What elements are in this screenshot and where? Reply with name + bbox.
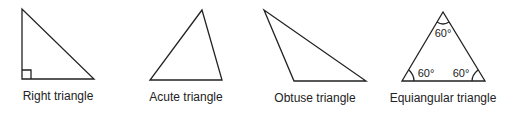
top-angle-label: 60° <box>435 27 452 39</box>
left-angle-arc <box>409 70 414 81</box>
top-angle-arc <box>437 22 449 24</box>
right-triangle-label: Right triangle <box>23 89 94 103</box>
right-angle-arc <box>472 70 478 81</box>
right-angle-marker <box>22 70 31 79</box>
obtuse-triangle-label: Obtuse triangle <box>274 91 355 105</box>
equiangular-triangle-label: Equiangular triangle <box>390 91 497 105</box>
right-triangle-shape <box>22 9 94 79</box>
equiangular-triangle-shape <box>402 12 485 81</box>
obtuse-triangle-shape <box>264 10 366 81</box>
left-angle-label: 60° <box>418 67 435 79</box>
acute-triangle-label: Acute triangle <box>149 90 222 104</box>
right-angle-label: 60° <box>453 67 470 79</box>
acute-triangle-shape <box>150 10 222 80</box>
